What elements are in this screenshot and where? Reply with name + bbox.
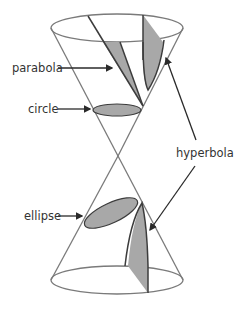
label-parabola: parabola <box>12 61 63 75</box>
lower-cone-right-edge <box>118 156 183 280</box>
lower-cone-base <box>51 266 183 294</box>
lower-cone <box>51 156 183 294</box>
conic-sections-diagram: parabola circle hyperbola ellipse <box>0 0 241 309</box>
parabola-edge-left <box>88 16 143 106</box>
hyperbola-arrow-upper <box>166 58 196 140</box>
label-hyperbola: hyperbola <box>176 146 234 160</box>
label-circle: circle <box>28 102 59 116</box>
upper-cone-rim <box>51 14 183 42</box>
parabola-section <box>88 16 143 106</box>
upper-hyperbola-section <box>143 15 164 90</box>
upper-cone <box>51 14 183 156</box>
lower-hyperbola-section <box>125 203 148 293</box>
label-ellipse: ellipse <box>24 209 61 223</box>
hyperbola-arrow-lower <box>150 166 195 230</box>
upper-hyperbola-plane <box>143 15 163 90</box>
